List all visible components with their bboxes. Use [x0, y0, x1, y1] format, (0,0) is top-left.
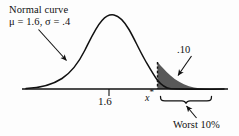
bracket-label-leader-arrow — [187, 106, 197, 118]
tail-span-brace — [161, 97, 212, 104]
cutoff-label-x-star: x* — [145, 89, 154, 104]
caption-leader-arrow — [39, 30, 67, 61]
tail-area-label: .10 — [177, 44, 190, 56]
shaded-tail-region — [158, 62, 211, 89]
bracket-label-worst-ten-percent: Worst 10% — [173, 119, 220, 131]
mean-tick-label: 1.6 — [98, 95, 112, 107]
normal-curve-figure: Normal curve μ = 1.6, σ = .4 1.6 .10 x* … — [0, 0, 239, 136]
cutoff-label-superscript: * — [149, 87, 154, 97]
distribution-caption: Normal curve μ = 1.6, σ = .4 — [9, 4, 70, 28]
caption-line-parameters: μ = 1.6, σ = .4 — [9, 16, 70, 28]
area-label-leader-arrow — [178, 56, 192, 76]
caption-line-title: Normal curve — [9, 4, 70, 16]
